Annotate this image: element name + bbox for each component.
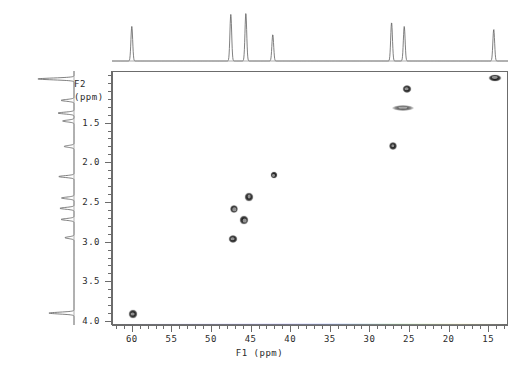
- cross-peak-core: [272, 174, 275, 177]
- f2-projection-trace: [34, 71, 76, 325]
- y-axis-tick-label: 3.0: [82, 237, 100, 247]
- y-axis-tick-label: 2.0: [82, 157, 100, 167]
- cross-peak-core: [247, 195, 251, 199]
- x-axis-minor-tick: [187, 325, 188, 329]
- x-axis-minor-tick: [441, 325, 442, 329]
- x-axis-minor-tick: [124, 325, 125, 329]
- cross-peak[interactable]: [488, 74, 501, 81]
- y-axis-minor-tick: [108, 91, 112, 92]
- y-axis-f2: 1.52.02.53.03.54.0: [111, 71, 112, 325]
- y-axis-major-tick: [105, 202, 112, 203]
- y-axis-minor-tick: [108, 131, 112, 132]
- x-axis-minor-tick: [401, 325, 402, 329]
- x-axis-major-tick: [211, 325, 212, 332]
- y-axis-tick-label: 4.0: [82, 316, 100, 326]
- y-axis-minor-tick: [108, 297, 112, 298]
- x-axis-tick-label: 55: [165, 334, 177, 344]
- x-axis-minor-tick: [306, 325, 307, 329]
- spectrum-plot-area[interactable]: [112, 71, 508, 325]
- f1-projection-trace: [112, 5, 508, 65]
- nmr-spectrum-figure: 1.52.02.53.03.54.0 F2 (ppm) 605550454035…: [0, 0, 519, 378]
- y-axis-minor-tick: [108, 265, 112, 266]
- x-axis-minor-tick: [282, 325, 283, 329]
- x-axis-minor-tick: [274, 325, 275, 329]
- x-axis-major-tick: [488, 325, 489, 332]
- x-axis-tick-label: 15: [482, 334, 494, 344]
- y-axis-minor-tick: [108, 115, 112, 116]
- cross-peak[interactable]: [389, 142, 397, 150]
- x-axis-f1: 60555045403530252015: [112, 325, 508, 326]
- x-axis-minor-tick: [496, 325, 497, 329]
- x-axis-tick-label: 45: [245, 334, 257, 344]
- y-axis-major-tick: [105, 281, 112, 282]
- x-axis-minor-tick: [219, 325, 220, 329]
- x-axis-minor-tick: [203, 325, 204, 329]
- cross-peak[interactable]: [240, 216, 249, 225]
- y-axis-minor-tick: [108, 107, 112, 108]
- y-axis-title: F2 (ppm): [74, 78, 104, 104]
- x-axis-tick-label: 40: [284, 334, 296, 344]
- y-axis-minor-tick: [108, 313, 112, 314]
- x-axis-minor-tick: [504, 325, 505, 329]
- y-axis-minor-tick: [108, 250, 112, 251]
- x-axis-minor-tick: [156, 325, 157, 329]
- y-axis-minor-tick: [108, 154, 112, 155]
- cross-peak-core: [492, 76, 497, 79]
- y-axis-minor-tick: [108, 83, 112, 84]
- cross-peak-core: [243, 219, 247, 223]
- y-axis-major-tick: [105, 321, 112, 322]
- y-axis-minor-tick: [108, 194, 112, 195]
- y-axis-minor-tick: [108, 258, 112, 259]
- x-axis-major-tick: [369, 325, 370, 332]
- x-axis-major-tick: [132, 325, 133, 332]
- x-axis-minor-tick: [140, 325, 141, 329]
- x-axis-minor-tick: [195, 325, 196, 329]
- x-axis-minor-tick: [163, 325, 164, 329]
- x-axis-minor-tick: [417, 325, 418, 329]
- x-axis-minor-tick: [361, 325, 362, 329]
- y-axis-minor-tick: [108, 289, 112, 290]
- y-axis-minor-tick: [108, 305, 112, 306]
- x-axis-tick-label: 60: [126, 334, 138, 344]
- cross-peak[interactable]: [392, 105, 414, 111]
- projection-trace-line: [38, 71, 74, 325]
- cross-peak[interactable]: [228, 235, 237, 243]
- y-axis-tick-label: 1.5: [82, 118, 100, 128]
- y-axis-minor-tick: [108, 99, 112, 100]
- y-axis-minor-tick: [108, 75, 112, 76]
- x-axis-minor-tick: [457, 325, 458, 329]
- cross-peak-core: [131, 312, 135, 316]
- cross-peak[interactable]: [128, 310, 137, 319]
- projection-trace-line: [112, 14, 508, 61]
- cross-peak-layer: [113, 72, 507, 324]
- y-axis-minor-tick: [108, 138, 112, 139]
- cross-peak-core: [405, 87, 409, 90]
- x-axis-tick-label: 30: [363, 334, 375, 344]
- x-axis-minor-tick: [377, 325, 378, 329]
- cross-peak[interactable]: [230, 205, 238, 213]
- y-axis-title-unit: (ppm): [74, 91, 104, 104]
- x-axis-minor-tick: [314, 325, 315, 329]
- x-axis-minor-tick: [354, 325, 355, 329]
- x-axis-major-tick: [330, 325, 331, 332]
- y-axis-tick-label: 3.5: [82, 276, 100, 286]
- x-axis-major-tick: [449, 325, 450, 332]
- x-axis-minor-tick: [179, 325, 180, 329]
- y-axis-major-tick: [105, 162, 112, 163]
- cross-peak[interactable]: [245, 192, 254, 201]
- x-axis-minor-tick: [433, 325, 434, 329]
- f2-projection-svg: [34, 71, 76, 325]
- cross-peak-core: [391, 144, 394, 147]
- x-axis-title: F1 (ppm): [0, 348, 519, 358]
- cross-peak[interactable]: [270, 172, 277, 179]
- x-axis-minor-tick: [243, 325, 244, 329]
- x-axis-tick-label: 20: [443, 334, 455, 344]
- x-axis-major-tick: [409, 325, 410, 332]
- x-axis-minor-tick: [259, 325, 260, 329]
- cross-peak[interactable]: [402, 85, 411, 93]
- x-axis-tick-label: 35: [324, 334, 336, 344]
- x-axis-minor-tick: [385, 325, 386, 329]
- x-axis-minor-tick: [480, 325, 481, 329]
- cross-peak-core: [398, 106, 407, 109]
- cross-peak-core: [232, 208, 235, 211]
